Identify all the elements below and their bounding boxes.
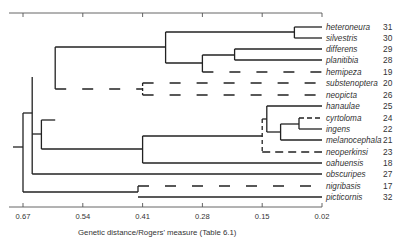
leaf-label-silvestris: silvestris: [326, 34, 357, 43]
leaf-label-nigribasis: nigribasis: [326, 182, 361, 191]
leaf-id: 24: [383, 113, 393, 123]
x-axis-title: Genetic distance/Rogers' measure (Table …: [78, 228, 237, 237]
leaf-label-oahuensis: oahuensis: [326, 159, 363, 168]
leaf-id: 26: [383, 90, 393, 100]
leaf-id: 19: [383, 67, 393, 77]
leaf-label-cyrtoloma: cyrtoloma: [326, 114, 362, 123]
leaf-labels: heteroneura31silvestris30differens29plan…: [325, 22, 393, 202]
leaf-id: 31: [383, 22, 393, 32]
x-tick-label: 0.02: [315, 212, 330, 221]
leaf-id: 17: [383, 181, 393, 191]
leaf-label-differens: differens: [326, 45, 357, 54]
leaf-label-obscuripes: obscuripes: [326, 170, 366, 179]
leaf-id: 21: [383, 135, 393, 145]
leaf-label-hanaulae: hanaulae: [326, 102, 360, 111]
leaf-id: 27: [383, 169, 393, 179]
x-tick-label: 0.41: [135, 212, 150, 221]
x-tick-label: 0.28: [195, 212, 210, 221]
leaf-label-ingens: ingens: [326, 125, 350, 134]
x-tick-label: 0.15: [255, 212, 270, 221]
leaf-id: 29: [383, 44, 393, 54]
leaf-label-planitibia: planitibia: [325, 56, 359, 65]
leaf-label-neoperkinsi: neoperkinsi: [326, 148, 368, 157]
leaf-label-heteroneura: heteroneura: [326, 23, 371, 32]
leaf-id: 32: [383, 192, 393, 202]
leaf-id: 18: [383, 158, 393, 168]
leaf-id: 22: [383, 124, 393, 134]
leaf-id: 25: [383, 101, 393, 111]
dendrogram-tree: [13, 27, 322, 197]
leaf-label-picticornis: picticornis: [325, 193, 362, 202]
dendrogram-chart: heteroneura31silvestris30differens29plan…: [0, 0, 399, 244]
leaf-id: 20: [383, 78, 393, 88]
leaf-id: 23: [383, 147, 393, 157]
x-tick-label: 0.67: [16, 212, 31, 221]
leaf-label-melanocephala: melanocephala: [326, 136, 382, 145]
leaf-id: 30: [383, 33, 393, 43]
leaf-label-hemipeza: hemipeza: [326, 68, 362, 77]
x-tick-label: 0.54: [75, 212, 90, 221]
leaf-id: 28: [383, 55, 393, 65]
leaf-label-substenoptera: substenoptera: [326, 79, 378, 88]
leaf-label-neopicta: neopicta: [326, 91, 357, 100]
